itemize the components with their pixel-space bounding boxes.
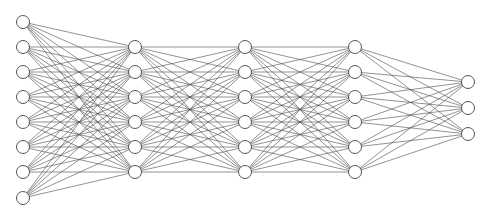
neuron-node-input-layer-7: [17, 166, 30, 179]
neuron-node-hidden-layer-1-1: [129, 41, 142, 54]
neuron-node-hidden-layer-1-3: [129, 91, 142, 104]
neuron-node-hidden-layer-3-3: [349, 91, 362, 104]
neuron-node-hidden-layer-2-3: [239, 91, 252, 104]
neuron-node-hidden-layer-2-4: [239, 116, 252, 129]
neuron-node-hidden-layer-2-2: [239, 66, 252, 79]
neuron-node-hidden-layer-1-2: [129, 66, 142, 79]
neuron-node-output-layer-1: [462, 76, 475, 89]
neuron-node-input-layer-1: [17, 16, 30, 29]
neuron-node-hidden-layer-3-4: [349, 116, 362, 129]
neuron-node-hidden-layer-2-1: [239, 41, 252, 54]
neuron-node-input-layer-4: [17, 91, 30, 104]
neuron-node-hidden-layer-3-5: [349, 141, 362, 154]
neuron-node-hidden-layer-1-6: [129, 166, 142, 179]
neuron-node-output-layer-3: [462, 128, 475, 141]
neuron-node-hidden-layer-1-5: [129, 141, 142, 154]
neuron-node-hidden-layer-2-5: [239, 141, 252, 154]
neuron-node-hidden-layer-1-4: [129, 116, 142, 129]
neural-network-diagram: [0, 0, 485, 218]
neuron-node-input-layer-6: [17, 141, 30, 154]
neuron-node-output-layer-2: [462, 102, 475, 115]
neuron-node-input-layer-3: [17, 66, 30, 79]
network-canvas: [0, 0, 485, 218]
neuron-node-input-layer-8: [17, 192, 30, 205]
neuron-node-hidden-layer-3-6: [349, 166, 362, 179]
neuron-node-input-layer-5: [17, 116, 30, 129]
neuron-node-hidden-layer-2-6: [239, 166, 252, 179]
neuron-node-hidden-layer-3-2: [349, 66, 362, 79]
neuron-node-input-layer-2: [17, 41, 30, 54]
diagram-background: [0, 0, 485, 218]
neuron-node-hidden-layer-3-1: [349, 41, 362, 54]
